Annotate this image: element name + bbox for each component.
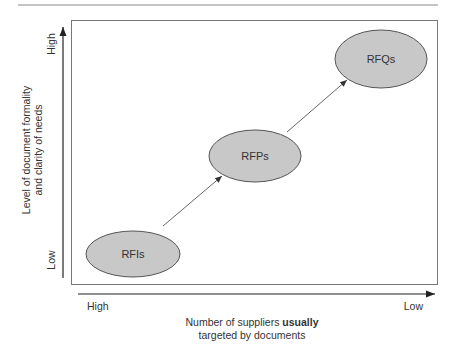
y-axis-low-label: Low	[45, 250, 57, 270]
node-rfps: RFPs	[209, 130, 301, 182]
x-axis-title-line1: Number of suppliers usually	[185, 316, 318, 328]
node-rfis: RFIs	[86, 231, 180, 277]
y-axis-title-line1: Level of document formality	[20, 85, 32, 214]
diagram-canvas: RFIs RFPs RFQs High Low Level of documen…	[0, 0, 457, 358]
node-rfis-label: RFIs	[121, 248, 145, 260]
node-rfps-label: RFPs	[241, 150, 269, 162]
edge-rfps-to-rfqs	[287, 80, 347, 132]
x-axis-title-bold: usually	[282, 316, 318, 328]
node-rfqs: RFQs	[335, 30, 427, 88]
x-axis-title-line2: targeted by documents	[199, 329, 306, 341]
node-rfqs-label: RFQs	[367, 53, 396, 65]
x-axis-high-label: High	[87, 300, 109, 312]
y-axis-title-line2: and clarity of needs	[32, 104, 44, 195]
y-axis-high-label: High	[45, 33, 57, 55]
edge-rfis-to-rfps	[163, 176, 222, 226]
x-axis-title-prefix: Number of suppliers	[185, 316, 282, 328]
x-axis-low-label: Low	[404, 300, 424, 312]
